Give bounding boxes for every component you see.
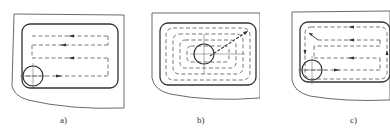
panel-b-caption: b) (197, 115, 205, 125)
panel-a-caption: a) (60, 115, 67, 125)
panel-a: a) (0, 0, 130, 140)
panel-b: b) (130, 0, 260, 140)
spiral-toolpath-diagram (130, 0, 260, 140)
zigzag-with-contour-toolpath-diagram (260, 0, 390, 140)
panel-c-caption: c) (350, 115, 357, 125)
panel-c: c) (260, 0, 390, 140)
